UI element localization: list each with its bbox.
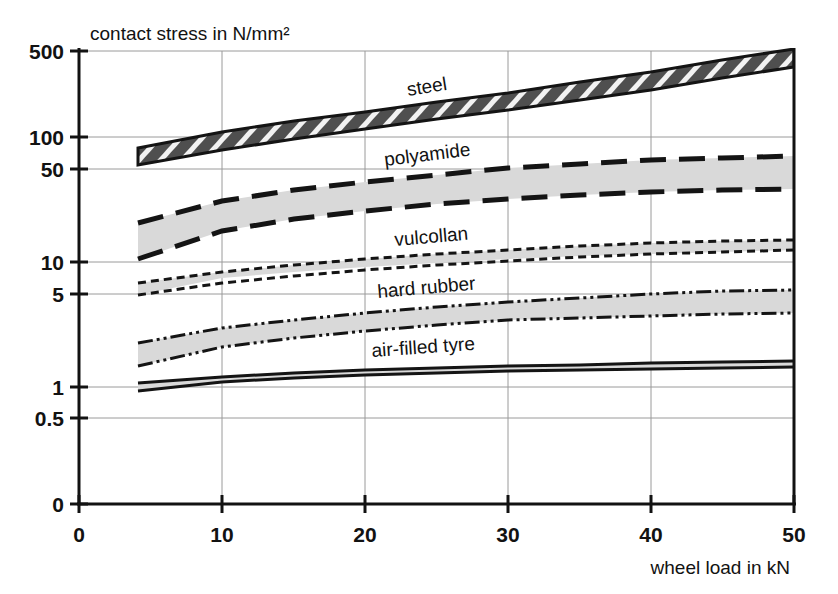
xtick-label-20: 20	[353, 523, 376, 546]
ytick-label-500: 500	[29, 40, 64, 63]
y-axis-title: contact stress in N/mm²	[90, 23, 290, 44]
chart-canvas: 500 100 50 10 5 1 0.5 0 0 10 20 30 40 50…	[0, 0, 838, 594]
ytick-label-5: 5	[52, 283, 64, 306]
ytick-label-0: 0	[52, 493, 64, 516]
ytick-label-50: 50	[41, 158, 64, 181]
xtick-label-40: 40	[639, 523, 662, 546]
ytick-label-0.5: 0.5	[35, 407, 65, 430]
xtick-label-0: 0	[73, 523, 85, 546]
ytick-label-100: 100	[29, 126, 64, 149]
xtick-label-30: 30	[496, 523, 519, 546]
xtick-label-50: 50	[782, 523, 805, 546]
ytick-label-10: 10	[41, 251, 64, 274]
contact-stress-chart: 500 100 50 10 5 1 0.5 0 0 10 20 30 40 50…	[0, 0, 838, 594]
xtick-label-10: 10	[210, 523, 233, 546]
x-axis-title: wheel load in kN	[650, 557, 790, 578]
ytick-label-1: 1	[52, 376, 64, 399]
